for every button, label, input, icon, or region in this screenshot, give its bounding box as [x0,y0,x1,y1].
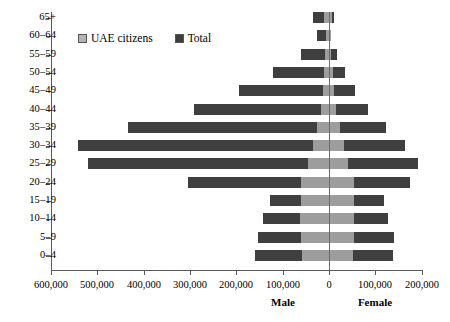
axis-side-label-male: Male [238,296,328,308]
legend-label-uae: UAE citizens [91,33,153,45]
bar-segment-male-uae [313,140,329,151]
bar-row-35-39 [0,122,450,133]
bar-segment-male-uae [317,122,329,133]
bar-row-15-19 [0,195,450,206]
bar-row-40-44 [0,104,450,115]
bar-segment-male-total [78,140,329,151]
x-axis-line [51,270,423,271]
bar-segment-female-uae [329,177,354,188]
bar-row-50-54 [0,67,450,78]
bar-segment-female-uae [329,158,348,169]
x-axis-tick [283,270,284,275]
bar-row-25-29 [0,158,450,169]
x-axis-tick [97,270,98,275]
bar-row-60-64 [0,30,450,41]
bar-row-0-4 [0,250,450,261]
population-pyramid-chart: 65+60–6455–5950–5445–4940–4435–3930–3425… [0,0,450,322]
legend-item-uae-citizens: UAE citizens [78,33,153,45]
x-axis-tick [144,270,145,275]
bar-segment-male-uae [300,213,329,224]
legend-item-total: Total [175,33,211,45]
bar-segment-male-total [128,122,329,133]
bar-segment-male-uae [301,177,329,188]
bar-segment-male-total [194,104,329,115]
x-axis-tick [236,270,237,275]
bar-segment-male-uae [308,158,329,169]
x-axis-tick [329,270,330,275]
bar-segment-male-total [88,158,329,169]
bar-row-5-9 [0,232,450,243]
bar-segment-male-uae [301,195,329,206]
bar-segment-male-total [273,67,329,78]
x-axis-tick [190,270,191,275]
legend-swatch-icon-uae [78,34,87,43]
bar-segment-female-uae [329,213,354,224]
x-axis-tick [375,270,376,275]
bar-segment-male-total [239,85,329,96]
legend-swatch-icon-total [175,34,184,43]
bar-segment-female-uae [329,232,354,243]
bar-segment-female-uae [329,140,344,151]
chart-legend: UAE citizens Total [78,33,211,45]
bar-segment-female-uae [329,250,353,261]
x-axis-tick [51,270,52,275]
bar-row-30-34 [0,140,450,151]
x-axis-label: 200,000 [382,279,450,291]
bar-row-45-49 [0,85,450,96]
axis-side-label-female: Female [330,296,420,308]
legend-label-total: Total [188,33,211,45]
bar-segment-female-uae [329,122,340,133]
bar-segment-male-uae [321,104,329,115]
bar-row-55-59 [0,49,450,60]
bar-segment-female-uae [329,195,354,206]
x-axis-tick [422,270,423,275]
bar-row-65- [0,12,450,23]
bar-row-20-24 [0,177,450,188]
bar-segment-female-uae [329,104,336,115]
bar-segment-male-uae [302,250,329,261]
plot-area: 65+60–6455–5950–5445–4940–4435–3930–3425… [0,0,450,322]
bar-segment-male-uae [301,232,329,243]
zero-baseline [329,12,330,270]
bar-row-10-14 [0,213,450,224]
